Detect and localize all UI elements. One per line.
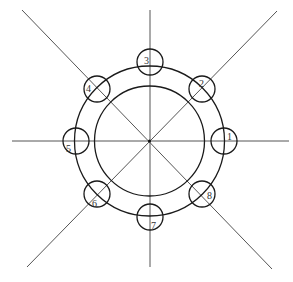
bolt-hole-label: 1 xyxy=(227,131,232,142)
bolt-hole-4: 4 xyxy=(84,76,110,102)
bolt-hole-label: 2 xyxy=(199,78,204,89)
bolt-hole-label: 6 xyxy=(92,198,97,209)
bolt-hole-label: 7 xyxy=(151,220,156,231)
bolt-hole-label: 3 xyxy=(144,55,149,66)
bolt-hole-label: 8 xyxy=(207,190,212,201)
center-point xyxy=(148,140,151,143)
bolt-circle-diagram: 12345678 xyxy=(0,0,293,282)
bolt-hole-2: 2 xyxy=(189,76,215,102)
bolt-hole-label: 5 xyxy=(66,143,71,154)
bolt-hole-label: 4 xyxy=(86,83,91,94)
